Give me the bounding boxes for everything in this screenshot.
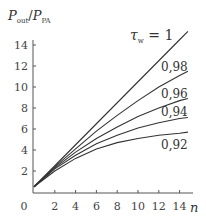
line-chart: 024681012142468101214 τw = 10,980,960,94… [0,0,206,221]
x-tick-label: 12 [152,200,166,213]
y-tick-label: 4 [21,144,28,157]
y-axis-label: Pout/PPA [7,8,52,25]
y-tick-label: 8 [21,102,28,115]
y-tick-label: 14 [14,39,28,52]
curve-label: 0,98 [161,60,188,74]
y-tick-label: 2 [21,165,28,178]
curve-line [34,117,188,186]
x-tick-label: 0 [21,200,28,213]
y-tick-label: 6 [21,123,28,136]
x-tick-label: 2 [51,200,58,213]
curve-label: τw = 1 [130,27,173,45]
curve-label: 0,94 [161,105,188,119]
y-tick-label: 10 [14,81,28,94]
x-tick-label: 14 [173,200,187,213]
curve-label: 0,96 [161,87,188,101]
x-tick-label: 4 [72,200,79,213]
curve-label: 0,92 [161,138,188,152]
x-tick-label: 8 [114,200,121,213]
x-tick-label: 6 [93,200,100,213]
y-tick-label: 12 [14,60,28,73]
x-axis-label: n [190,200,198,215]
x-tick-label: 10 [131,200,145,213]
